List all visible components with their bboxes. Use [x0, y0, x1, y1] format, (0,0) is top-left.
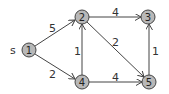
weight-5-3: 1 [152, 45, 159, 58]
source-label: s [10, 44, 16, 57]
weight-4-2: 1 [74, 45, 81, 58]
weight-2-5: 2 [112, 36, 119, 49]
svg-text:3: 3 [145, 12, 151, 23]
node-5: 5 [142, 75, 156, 89]
svg-text:1: 1 [26, 45, 32, 56]
weighted-directed-graph: 5 2 4 2 1 4 1 s 1 2 3 4 5 [0, 0, 169, 94]
weight-2-3: 4 [112, 6, 119, 19]
edge-2-5 [87, 22, 144, 77]
svg-text:4: 4 [79, 77, 85, 88]
weight-1-2: 5 [49, 22, 56, 35]
node-1: 1 [22, 43, 36, 57]
node-2: 2 [75, 10, 89, 24]
weight-1-4: 2 [49, 68, 56, 81]
svg-text:5: 5 [146, 77, 152, 88]
node-4: 4 [75, 75, 89, 89]
node-3: 3 [141, 10, 155, 24]
weight-4-5: 4 [112, 71, 119, 84]
svg-text:2: 2 [79, 12, 85, 23]
